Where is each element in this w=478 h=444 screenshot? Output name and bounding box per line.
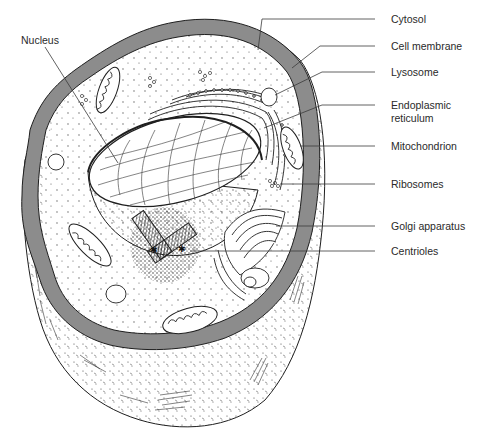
- centrosome: ✱ ✱: [130, 207, 200, 283]
- label-nucleus: Nucleus: [21, 34, 59, 46]
- label-mitochondrion: Mitochondrion: [391, 140, 457, 152]
- label-cell-membrane: Cell membrane: [391, 40, 462, 52]
- label-lysosome: Lysosome: [391, 66, 438, 78]
- svg-text:✱: ✱: [150, 245, 158, 255]
- label-endoplasmic-reticulum-line2: reticulum: [391, 112, 434, 124]
- svg-text:✱: ✱: [178, 244, 186, 254]
- cell-diagram: ✱ ✱: [0, 0, 478, 444]
- label-golgi-apparatus: Golgi apparatus: [391, 220, 465, 232]
- label-endoplasmic-reticulum-line1: Endoplasmic: [391, 99, 451, 111]
- label-cytosol: Cytosol: [391, 13, 426, 25]
- label-ribosomes: Ribosomes: [391, 178, 444, 190]
- label-centrioles: Centrioles: [391, 245, 438, 257]
- leader-cell-membrane: [292, 46, 375, 68]
